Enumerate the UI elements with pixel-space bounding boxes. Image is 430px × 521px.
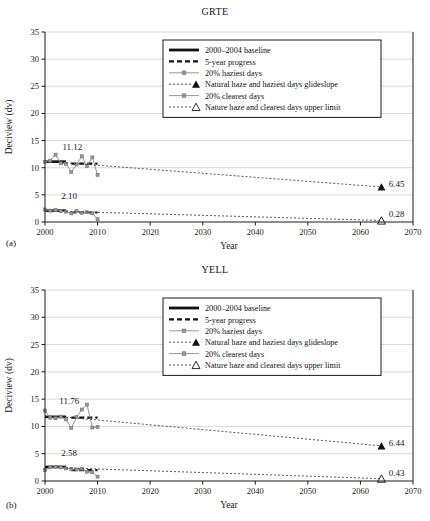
panel-label-b: (b) <box>6 500 17 510</box>
x-tick-label: 2050 <box>299 486 316 496</box>
y-tick-label: 0 <box>35 217 39 227</box>
data-annotation: 11.76 <box>59 396 79 406</box>
data-point-marker <box>86 470 89 473</box>
y-tick-label: 20 <box>31 108 40 118</box>
y-tick-label: 20 <box>31 367 40 377</box>
data-point-marker <box>59 210 62 213</box>
x-tick-label: 2020 <box>142 227 159 237</box>
legend-label: 5-year progress <box>205 58 256 67</box>
data-point-marker <box>80 155 83 158</box>
legend-label: 20% clearest days <box>205 350 264 359</box>
data-point-marker <box>49 466 52 469</box>
y-tick-label: 15 <box>31 394 40 404</box>
y-tick-label: 10 <box>31 421 40 431</box>
x-tick-label: 2020 <box>142 486 159 496</box>
series-glideslope <box>66 163 381 187</box>
data-point-marker <box>49 416 52 419</box>
y-tick-label: 35 <box>31 285 40 295</box>
data-point-marker <box>59 415 62 418</box>
data-annotation: 2.10 <box>61 191 77 201</box>
y-tick-label: 30 <box>31 54 40 64</box>
y-tick-label: 25 <box>31 81 40 91</box>
legend-label: 2000–2004 baseline <box>205 304 271 313</box>
data-point-marker <box>86 165 89 168</box>
legend-label: Natural haze and haziest days glideslope <box>205 80 338 89</box>
data-point-marker <box>59 162 62 165</box>
x-axis-title: Year <box>220 241 238 251</box>
legend-label: Nature haze and clearest days upper limi… <box>205 361 341 370</box>
data-point-marker <box>91 471 94 474</box>
y-axis-title: Deciview (dv) <box>4 358 15 413</box>
legend-label: 2000–2004 baseline <box>205 46 271 55</box>
y-tick-label: 5 <box>35 190 39 200</box>
x-tick-label: 2030 <box>194 486 211 496</box>
x-tick-label: 2000 <box>37 227 54 237</box>
data-annotation: 6.45 <box>389 179 405 189</box>
data-point-marker <box>49 209 52 212</box>
x-tick-label: 2030 <box>194 227 211 237</box>
data-point-marker <box>54 153 57 156</box>
y-tick-label: 10 <box>31 163 40 173</box>
data-point-marker <box>91 426 94 429</box>
x-tick-label: 2050 <box>299 227 316 237</box>
x-tick-label: 2070 <box>405 227 422 237</box>
data-point-marker <box>49 159 52 162</box>
data-point-marker <box>96 218 99 221</box>
x-tick-label: 2040 <box>247 486 264 496</box>
data-point-marker <box>80 467 83 470</box>
x-tick-label: 2040 <box>247 227 264 237</box>
legend-label: 20% haziest days <box>205 69 262 78</box>
data-point-marker <box>75 210 78 213</box>
data-point-marker <box>80 408 83 411</box>
data-point-marker <box>54 465 57 468</box>
series-upperlimit <box>66 211 381 220</box>
series-upperlimit <box>66 468 381 479</box>
data-point-marker <box>91 156 94 159</box>
data-point-marker <box>86 403 89 406</box>
data-point-marker <box>96 425 99 428</box>
data-point-marker <box>65 467 68 470</box>
x-axis-title: Year <box>220 500 238 510</box>
data-point-marker <box>59 466 62 469</box>
y-tick-label: 25 <box>31 340 40 350</box>
x-tick-label: 2000 <box>37 486 54 496</box>
chart-panel-grte: GRTE (a) 0510152025303520002010202020302… <box>0 0 430 260</box>
y-tick-label: 15 <box>31 136 40 146</box>
y-tick-label: 0 <box>35 476 39 486</box>
legend-marker-haziest <box>182 329 186 333</box>
legend-label: 20% clearest days <box>205 92 264 101</box>
x-tick-label: 2060 <box>352 227 369 237</box>
data-point-marker <box>54 209 57 212</box>
chart-panel-yell: YELL (b) 0510152025303520002010202020302… <box>0 260 430 521</box>
data-point-marker <box>65 418 68 421</box>
y-tick-label: 5 <box>35 449 39 459</box>
legend-label: 20% haziest days <box>205 327 262 336</box>
x-tick-label: 2010 <box>89 486 106 496</box>
x-tick-label: 2070 <box>405 486 422 496</box>
x-tick-label: 2060 <box>352 486 369 496</box>
y-tick-label: 35 <box>31 27 40 37</box>
legend-marker-haziest <box>182 71 186 75</box>
data-point-marker <box>96 475 99 478</box>
chart-svg-yell: 0510152025303520002010202020302040205020… <box>0 260 430 521</box>
x-tick-label: 2010 <box>89 227 106 237</box>
figure-container: GRTE (a) 0510152025303520002010202020302… <box>0 0 430 521</box>
data-point-marker <box>54 417 57 420</box>
data-point-marker <box>96 173 99 176</box>
data-annotation: 2.58 <box>61 448 77 458</box>
chart-svg-grte: 0510152025303520002010202020302040205020… <box>0 0 430 260</box>
legend-label: Nature haze and clearest days upper limi… <box>205 103 341 112</box>
data-annotation: 6.44 <box>389 438 405 448</box>
legend-marker-clearest <box>182 94 186 98</box>
legend-label: 5-year progress <box>205 316 256 325</box>
chart-title-grte: GRTE <box>0 6 430 17</box>
data-annotation: 0.43 <box>389 468 405 478</box>
legend-label: Natural haze and haziest days glideslope <box>205 338 338 347</box>
data-point-marker <box>70 212 73 215</box>
data-annotation: 0.28 <box>389 209 405 219</box>
panel-label-a: (a) <box>6 238 16 248</box>
series-glideslope <box>66 417 381 446</box>
legend-marker-clearest <box>182 352 186 356</box>
data-point-marker <box>70 427 73 430</box>
data-point-marker <box>70 171 73 174</box>
